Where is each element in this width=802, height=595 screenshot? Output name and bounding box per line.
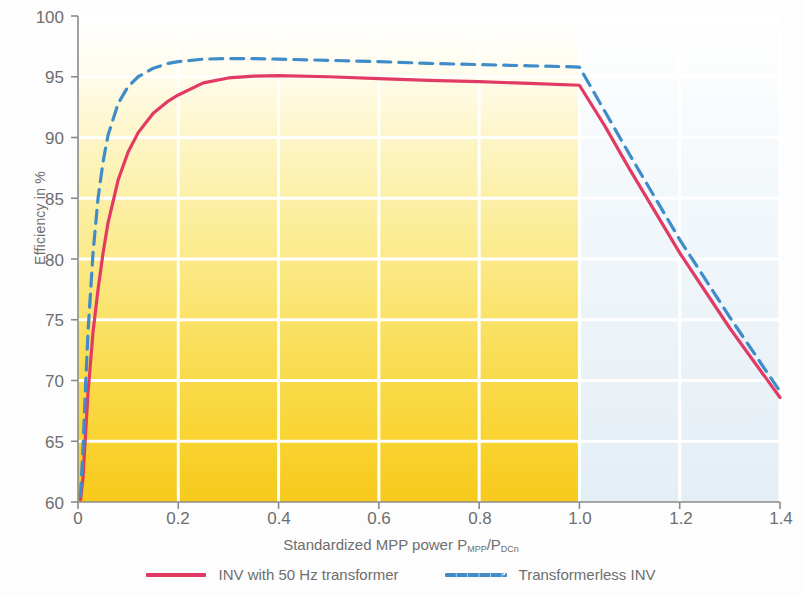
chart-figure: Efficiency in % 100 95 90 85 80 75 70 65…	[0, 0, 802, 595]
plot-area	[0, 0, 802, 595]
